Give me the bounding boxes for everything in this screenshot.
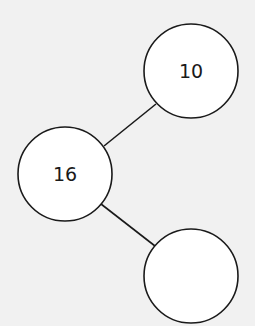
node-part-top-label: 10: [179, 60, 203, 82]
edge-whole-to-top: [104, 104, 156, 146]
edge-whole-to-bottom: [101, 204, 155, 246]
node-whole: 16: [18, 127, 112, 221]
node-whole-label: 16: [53, 163, 77, 185]
node-part-bottom[interactable]: [144, 229, 238, 323]
node-part-top: 10: [144, 24, 238, 118]
number-bond-diagram: 16 10: [0, 0, 255, 326]
